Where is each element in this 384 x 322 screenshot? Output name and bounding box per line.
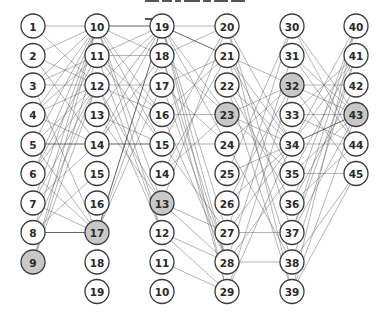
node-44: 44 [344, 132, 368, 156]
node-36: 36 [280, 191, 304, 215]
node-label: 15 [155, 139, 170, 151]
edge [33, 144, 97, 233]
network-diagram: 1234567891011121314151617181919181716151… [0, 0, 384, 322]
edge [292, 26, 356, 292]
node-label: 10 [155, 286, 170, 298]
node-label: 13 [155, 198, 170, 210]
node-label: 24 [220, 139, 235, 151]
node-38: 38 [280, 250, 304, 274]
node-13: 13 [150, 191, 174, 215]
node-label: 8 [29, 227, 36, 239]
node-label: 40 [349, 21, 364, 33]
node-label: 23 [220, 109, 235, 121]
node-26: 26 [215, 191, 239, 215]
node-label: 2 [29, 50, 36, 62]
node-40: 40 [344, 14, 368, 38]
node-2: 2 [21, 44, 45, 68]
node-8: 8 [21, 221, 45, 245]
node-label: 11 [90, 50, 105, 62]
node-39: 39 [280, 280, 304, 304]
node-label: 16 [155, 109, 170, 121]
node-16: 16 [85, 191, 109, 215]
node-label: 32 [285, 80, 300, 92]
node-25: 25 [215, 162, 239, 186]
node-label: 26 [220, 198, 235, 210]
node-label: 16 [90, 198, 105, 210]
node-label: 42 [349, 80, 364, 92]
edge [292, 26, 356, 115]
node-30: 30 [280, 14, 304, 38]
node-11: 11 [150, 250, 174, 274]
node-21: 21 [215, 44, 239, 68]
edge [162, 144, 227, 233]
node-9: 9 [21, 250, 45, 274]
node-11: 11 [85, 44, 109, 68]
node-label: 7 [29, 198, 36, 210]
edge [292, 174, 356, 263]
node-29: 29 [215, 280, 239, 304]
node-label: 13 [90, 109, 105, 121]
node-34: 34 [280, 132, 304, 156]
node-label: 29 [220, 286, 235, 298]
node-17: 17 [150, 73, 174, 97]
node-18: 18 [85, 250, 109, 274]
node-19: 19 [85, 280, 109, 304]
node-label: 21 [220, 50, 235, 62]
node-label: 31 [285, 50, 300, 62]
node-label: 39 [285, 286, 300, 298]
node-28: 28 [215, 250, 239, 274]
node-27: 27 [215, 221, 239, 245]
node-19: 19 [150, 14, 174, 38]
node-41: 41 [344, 44, 368, 68]
node-label: 19 [155, 21, 170, 33]
node-label: 12 [155, 227, 170, 239]
node-label: 27 [220, 227, 235, 239]
node-label: 43 [349, 109, 364, 121]
edge [33, 56, 97, 145]
node-12: 12 [150, 221, 174, 245]
node-14: 14 [150, 162, 174, 186]
node-label: 17 [155, 80, 170, 92]
node-18: 18 [150, 44, 174, 68]
node-label: 45 [349, 168, 364, 180]
node-43: 43 [344, 103, 368, 127]
node-4: 4 [21, 103, 45, 127]
edge [33, 26, 97, 115]
node-16: 16 [150, 103, 174, 127]
node-label: 28 [220, 257, 235, 269]
node-label: 19 [90, 286, 105, 298]
node-45: 45 [344, 162, 368, 186]
node-32: 32 [280, 73, 304, 97]
node-label: 9 [29, 257, 36, 269]
node-label: 18 [90, 257, 105, 269]
node-5: 5 [21, 132, 45, 156]
node-13: 13 [85, 103, 109, 127]
node-17: 17 [85, 221, 109, 245]
node-label: 4 [29, 109, 36, 121]
node-35: 35 [280, 162, 304, 186]
node-label: 10 [90, 21, 105, 33]
node-label: 14 [155, 168, 170, 180]
node-label: 11 [155, 257, 170, 269]
node-label: 12 [90, 80, 105, 92]
node-6: 6 [21, 162, 45, 186]
node-24: 24 [215, 132, 239, 156]
node-label: 6 [29, 168, 36, 180]
node-1: 1 [21, 14, 45, 38]
node-15: 15 [85, 162, 109, 186]
node-37: 37 [280, 221, 304, 245]
node-label: 5 [29, 139, 36, 151]
node-label: 22 [220, 80, 235, 92]
node-33: 33 [280, 103, 304, 127]
node-label: 35 [285, 168, 300, 180]
node-label: 17 [90, 227, 105, 239]
node-label: 44 [349, 139, 364, 151]
node-10: 10 [150, 280, 174, 304]
node-22: 22 [215, 73, 239, 97]
node-label: 38 [285, 257, 300, 269]
node-label: 3 [29, 80, 36, 92]
node-15: 15 [150, 132, 174, 156]
node-10: 10 [85, 14, 109, 38]
node-label: 30 [285, 21, 300, 33]
node-3: 3 [21, 73, 45, 97]
